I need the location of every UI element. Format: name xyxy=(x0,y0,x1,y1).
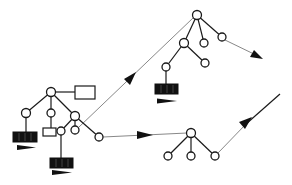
connector-bottom-tree-out xyxy=(218,124,246,153)
tree-node xyxy=(22,109,31,118)
record-box-small xyxy=(43,128,56,136)
tree-node xyxy=(71,112,80,121)
tree-node-root xyxy=(193,11,202,20)
tree-node xyxy=(71,126,79,134)
data-block xyxy=(13,132,37,142)
tree-node xyxy=(211,152,219,160)
top-right-tree xyxy=(155,11,226,104)
data-block xyxy=(50,158,73,168)
tree-node xyxy=(187,152,195,160)
connector-bottom-tree-out-upper xyxy=(246,94,280,124)
tree-node xyxy=(162,63,170,71)
connector-group xyxy=(79,18,280,153)
tree-node xyxy=(180,39,189,48)
left-tree xyxy=(13,86,103,175)
connector-left-to-top-tree xyxy=(79,18,193,127)
tree-node xyxy=(218,33,226,41)
record-box xyxy=(75,86,95,99)
arrowhead-icon xyxy=(239,117,252,129)
pointer-arrow-icon xyxy=(157,99,177,104)
tree-diagram xyxy=(0,0,292,185)
tree-node xyxy=(95,133,103,141)
arrowhead-icon xyxy=(137,131,153,139)
tree-node xyxy=(57,127,65,135)
pointer-arrow-icon xyxy=(52,170,72,175)
data-block xyxy=(155,84,178,94)
tree-node xyxy=(47,109,55,117)
arrowhead-icon xyxy=(250,50,263,59)
tree-node-root xyxy=(187,129,196,138)
tree-node xyxy=(164,152,172,160)
tree-node-root xyxy=(47,88,56,97)
tree-node xyxy=(200,39,208,47)
pointer-arrow-icon xyxy=(17,145,36,150)
arrowhead-icon xyxy=(124,72,136,85)
tree-node xyxy=(201,59,209,67)
